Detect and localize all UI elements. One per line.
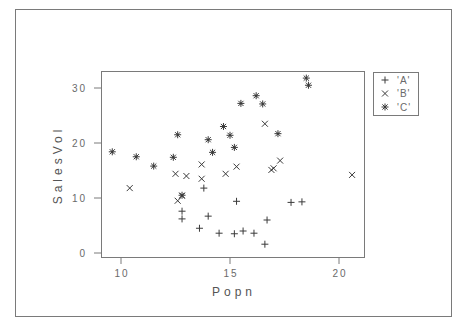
data-point-asterisk-icon <box>253 92 260 99</box>
y-tick-label: 0 <box>79 248 87 259</box>
data-point-asterisk-icon <box>133 153 140 160</box>
data-point-plus-icon <box>231 230 238 237</box>
data-point-asterisk-icon <box>227 132 234 139</box>
x-axis: 101520 <box>114 258 347 280</box>
data-point-plus-icon <box>240 228 247 235</box>
data-point-plus-icon <box>264 217 271 224</box>
data-point-asterisk-icon <box>170 154 177 161</box>
data-point-x-icon <box>234 164 240 170</box>
data-point-plus-icon <box>261 241 268 248</box>
data-point-plus-icon <box>205 213 212 220</box>
plot-area <box>102 72 365 258</box>
data-point-x-icon <box>262 121 268 127</box>
y-tick-label: 30 <box>72 83 87 94</box>
data-point-plus-icon <box>288 199 295 206</box>
data-point-asterisk-icon <box>174 131 181 138</box>
y-tick-label: 10 <box>72 193 87 204</box>
legend-asterisk-icon <box>382 104 389 111</box>
legend-label: 'A' <box>397 75 411 86</box>
data-point-asterisk-icon <box>209 149 216 156</box>
y-axis: 0102030 <box>72 83 102 259</box>
legend: 'A''B''C' <box>374 73 419 116</box>
data-point-plus-icon <box>298 198 305 205</box>
scatter-chart: 0102030 101520 SalesVol Popn 'A''B''C' <box>0 0 461 327</box>
x-tick-label: 15 <box>223 268 238 279</box>
data-point-asterisk-icon <box>220 123 227 130</box>
data-points <box>109 75 355 248</box>
data-point-asterisk-icon <box>205 136 212 143</box>
data-point-asterisk-icon <box>259 100 266 107</box>
data-point-plus-icon <box>196 225 203 232</box>
data-point-asterisk-icon <box>237 100 244 107</box>
x-tick-label: 10 <box>114 268 129 279</box>
y-tick-label: 20 <box>72 138 87 149</box>
data-point-x-icon <box>271 165 277 171</box>
data-point-plus-icon <box>250 230 257 237</box>
x-axis-title: Popn <box>212 285 256 299</box>
data-point-plus-icon <box>179 208 186 215</box>
data-point-asterisk-icon <box>303 75 310 82</box>
data-point-asterisk-icon <box>150 163 157 170</box>
x-tick-label: 20 <box>332 268 347 279</box>
data-point-plus-icon <box>233 198 240 205</box>
data-point-x-icon <box>199 176 205 182</box>
data-point-plus-icon <box>216 230 223 237</box>
data-point-asterisk-icon <box>109 148 116 155</box>
legend-label: 'B' <box>397 88 411 99</box>
data-point-asterisk-icon <box>274 130 281 137</box>
data-point-x-icon <box>127 185 133 191</box>
data-point-x-icon <box>349 172 355 178</box>
legend-label: 'C' <box>397 102 411 113</box>
data-point-x-icon <box>277 158 283 164</box>
data-point-asterisk-icon <box>305 82 312 89</box>
data-point-x-icon <box>199 161 205 167</box>
data-point-asterisk-icon <box>179 192 186 199</box>
data-point-x-icon <box>183 173 189 179</box>
data-point-plus-icon <box>179 215 186 222</box>
y-axis-title: SalesVol <box>51 126 65 205</box>
data-point-x-icon <box>223 171 229 177</box>
data-point-asterisk-icon <box>231 144 238 151</box>
legend-box <box>374 73 419 116</box>
data-point-plus-icon <box>200 185 207 192</box>
data-point-x-icon <box>173 171 179 177</box>
